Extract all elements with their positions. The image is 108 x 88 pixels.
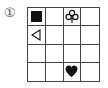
- puzzle-number-label: ①: [4, 6, 16, 20]
- filled-square-icon: [31, 11, 42, 22]
- grid-cell-r4-c3: [64, 63, 82, 81]
- grid-cell-r4-c1: [28, 63, 46, 81]
- grid-cell-r1-c3: [64, 8, 82, 26]
- symbol-grid: [27, 7, 100, 82]
- grid-cell-r1-c2: [46, 8, 64, 26]
- grid-cell-r2-c2: [46, 26, 64, 44]
- grid-cell-r1-c1: [28, 8, 46, 26]
- grid-cell-r3-c3: [64, 45, 82, 63]
- grid-cell-r3-c4: [81, 45, 99, 63]
- triangle-left-outline-icon: [31, 29, 41, 41]
- club-outline-icon: [65, 9, 79, 24]
- grid-cell-r4-c4: [81, 63, 99, 81]
- grid-cell-r2-c3: [64, 26, 82, 44]
- grid-cell-r3-c2: [46, 45, 64, 63]
- heart-filled-icon: [65, 65, 78, 78]
- grid-cell-r4-c2: [46, 63, 64, 81]
- grid-cell-r2-c1: [28, 26, 46, 44]
- grid-cell-r3-c1: [28, 45, 46, 63]
- grid-cell-r1-c4: [81, 8, 99, 26]
- grid-cell-r2-c4: [81, 26, 99, 44]
